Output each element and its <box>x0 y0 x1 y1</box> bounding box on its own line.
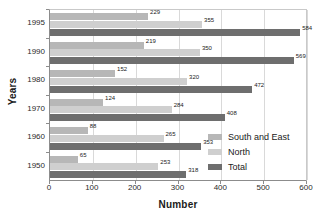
bar-value-label: 88 <box>90 123 97 130</box>
x-tick-label: 200 <box>120 183 150 192</box>
bar-value-label: 124 <box>105 95 115 102</box>
bar-value-label: 65 <box>80 152 87 159</box>
x-tick-label: 100 <box>77 183 107 192</box>
y-tick-label: 1960 <box>14 132 45 141</box>
x-tick-label: 300 <box>163 183 193 192</box>
bar-value-label: 569 <box>296 53 306 60</box>
bar-value-label: 320 <box>189 74 199 81</box>
legend-item: South and East <box>208 129 290 144</box>
bar-chart: Years Number 199519901980197019601950 22… <box>0 0 328 215</box>
bar <box>50 143 201 150</box>
bar <box>50 42 144 49</box>
x-tick-label: 500 <box>248 183 278 192</box>
legend-item: Total <box>208 159 290 174</box>
bar <box>50 156 78 163</box>
y-tick-label: 1950 <box>14 161 45 170</box>
bar <box>50 163 158 170</box>
bar-group: 219350569 <box>50 39 306 68</box>
bar <box>50 114 225 121</box>
bar-value-label: 472 <box>254 82 264 89</box>
bar-value-label: 355 <box>204 17 214 24</box>
legend-swatch <box>208 149 222 155</box>
bar <box>50 106 172 113</box>
legend-swatch <box>208 164 222 170</box>
bar-group: 124284408 <box>50 96 306 125</box>
bar <box>50 171 186 178</box>
x-tick-label: 600 <box>291 183 321 192</box>
y-tick-label: 1990 <box>14 47 45 56</box>
legend-item: North <box>208 144 290 159</box>
bar <box>50 99 103 106</box>
legend-label: North <box>228 147 250 157</box>
bar <box>50 78 187 85</box>
bar-value-label: 152 <box>117 66 127 73</box>
y-tick-label: 1980 <box>14 75 45 84</box>
bar <box>50 21 202 28</box>
y-tick-label: 1995 <box>14 18 45 27</box>
gridline <box>307 10 308 180</box>
bar <box>50 70 115 77</box>
y-tick-label: 1970 <box>14 104 45 113</box>
x-tick-label: 400 <box>205 183 235 192</box>
bar <box>50 49 200 56</box>
bar-value-label: 229 <box>150 9 160 16</box>
bar <box>50 127 88 134</box>
x-tick-label: 0 <box>34 183 64 192</box>
bar <box>50 57 294 64</box>
bar-value-label: 408 <box>227 110 237 117</box>
legend-label: Total <box>228 162 247 172</box>
bar-value-label: 265 <box>166 131 176 138</box>
bar-value-label: 318 <box>188 167 198 174</box>
bar-value-label: 253 <box>160 159 170 166</box>
bar <box>50 86 252 93</box>
bar-value-label: 284 <box>174 102 184 109</box>
bar-value-label: 350 <box>202 45 212 52</box>
bar <box>50 135 164 142</box>
bar-group: 229355584 <box>50 10 306 39</box>
legend-label: South and East <box>228 132 290 142</box>
bar-value-label: 584 <box>302 25 312 32</box>
bar <box>50 13 148 20</box>
chart-legend: South and EastNorthTotal <box>208 129 290 174</box>
legend-swatch <box>208 134 222 140</box>
bar-value-label: 219 <box>146 38 156 45</box>
bar <box>50 29 300 36</box>
bar-group: 152320472 <box>50 67 306 96</box>
